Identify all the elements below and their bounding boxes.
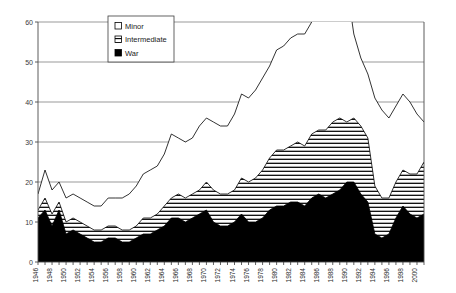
xtick-label: 1956: [102, 268, 109, 283]
ytick-label: 0: [29, 259, 33, 266]
xtick-label: 1990: [341, 268, 348, 283]
xtick-label: 1948: [46, 268, 53, 283]
xtick-label: 1964: [158, 268, 165, 283]
xtick-label: 1982: [285, 268, 292, 283]
xtick-label: 1970: [200, 268, 207, 283]
legend-label-intermediate: Intermediate: [125, 35, 167, 44]
xtick-label: 1958: [116, 268, 123, 283]
xtick-label: 2000: [411, 268, 418, 283]
xtick-label: 1996: [383, 268, 390, 283]
xtick-label: 1978: [257, 268, 264, 283]
chart-canvas: 0102030405060 19461948195019521954195619…: [0, 0, 456, 293]
xtick-label: 1954: [88, 268, 95, 283]
ytick-label: 30: [25, 139, 33, 146]
ytick-label: 20: [25, 179, 33, 186]
xtick-label: 1950: [60, 268, 67, 283]
xtick-label: 1966: [172, 268, 179, 283]
legend-swatch-minor: [115, 23, 122, 30]
xtick-label: 1962: [144, 268, 151, 283]
armed-conflicts-stacked-area-chart: 0102030405060 19461948195019521954195619…: [0, 0, 456, 293]
ytick-label: 60: [25, 19, 33, 26]
xtick-label: 1946: [32, 268, 39, 283]
chart-legend: Minor Intermediate War: [108, 16, 174, 62]
xtick-label: 1960: [130, 268, 137, 283]
xtick-label: 1994: [369, 268, 376, 283]
ytick-label: 40: [25, 99, 33, 106]
xtick-label: 1998: [397, 268, 404, 283]
legend-swatch-intermediate: [115, 36, 122, 43]
xtick-label: 1980: [271, 268, 278, 283]
xtick-label: 1968: [186, 268, 193, 283]
xtick-label: 1972: [214, 268, 221, 283]
ytick-label: 10: [25, 219, 33, 226]
xtick-label: 1992: [355, 268, 362, 283]
legend-swatch-war: [115, 50, 122, 57]
xtick-label: 1976: [243, 268, 250, 283]
legend-label-minor: Minor: [125, 22, 144, 31]
xtick-label: 1952: [74, 268, 81, 283]
xtick-label: 1986: [313, 268, 320, 283]
xtick-label: 1984: [299, 268, 306, 283]
legend-label-war: War: [125, 49, 139, 58]
xtick-label: 1974: [229, 268, 236, 283]
ytick-label: 50: [25, 59, 33, 66]
xtick-label: 1988: [327, 268, 334, 283]
